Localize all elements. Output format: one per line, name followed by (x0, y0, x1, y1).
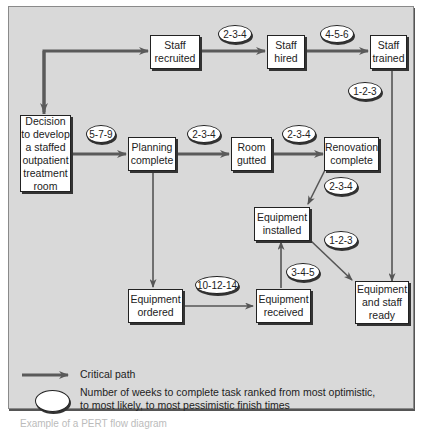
node-label: treatment (23, 167, 67, 180)
node-label: recruited (155, 52, 196, 65)
duration-trained-ready: 1-2-3 (348, 82, 382, 100)
node-equipment-received: Equipment received (256, 289, 311, 323)
duration-gutted-renovation: 2-3-4 (282, 125, 316, 143)
node-label: Equipment (257, 211, 307, 224)
node-label: Equipment (258, 293, 308, 306)
node-label: to develop (21, 128, 69, 141)
legend-critical-path-label: Critical path (80, 368, 135, 381)
arrows-layer (0, 0, 429, 434)
node-label: Planning (132, 141, 173, 154)
node-equipment-staff-ready: Equipment and staff ready (355, 281, 409, 324)
node-planning-complete: Planning complete (128, 137, 176, 171)
duration-renovation-installed: 2-3-4 (324, 177, 358, 195)
duration-decision-planning: 5-7-9 (86, 125, 116, 143)
node-label: gutted (237, 154, 266, 167)
node-staff-trained: Staff trained (370, 35, 407, 69)
node-label: complete (131, 154, 174, 167)
duration-received-installed: 3-4-5 (286, 263, 320, 281)
node-label: ordered (137, 306, 173, 319)
node-label: installed (263, 224, 302, 237)
node-label: Room (237, 141, 265, 154)
node-renovation-complete: Renovation complete (324, 137, 379, 171)
node-staff-recruited: Staff recruited (150, 35, 200, 69)
node-label: and staff (362, 296, 402, 309)
duration-hired-trained: 4-5-6 (320, 25, 354, 43)
node-label: room (34, 180, 58, 193)
node-label: complete (330, 154, 373, 167)
node-label: Equipment (130, 293, 180, 306)
node-label: Equipment (357, 283, 407, 296)
legend-oval-icon (35, 390, 70, 412)
node-room-gutted: Room gutted (231, 137, 272, 171)
duration-ordered-received: 10-12-14 (195, 276, 239, 294)
node-label: Staff (164, 39, 185, 52)
node-label: hired (274, 52, 297, 65)
duration-recruited-hired: 2-3-4 (218, 25, 252, 43)
node-equipment-ordered: Equipment ordered (128, 289, 183, 323)
node-label: trained (372, 52, 404, 65)
node-label: received (264, 306, 304, 319)
node-label: Staff (275, 39, 296, 52)
node-label: Renovation (325, 141, 378, 154)
node-equipment-installed: Equipment installed (254, 207, 310, 241)
node-decision: Decision to develop a staffed outpatient… (20, 115, 71, 192)
node-label: Decision (25, 115, 65, 128)
figure-caption: Example of a PERT flow diagram (20, 418, 167, 429)
legend-oval-line2: to most likely, to most pessimistic fini… (80, 399, 290, 412)
duration-installed-ready: 1-2-3 (324, 231, 358, 249)
node-label: ready (369, 309, 395, 322)
node-label: Staff (378, 39, 399, 52)
duration-planning-gutted: 2-3-4 (187, 125, 221, 143)
node-label: a staffed (25, 141, 65, 154)
node-label: outpatient (22, 154, 68, 167)
node-staff-hired: Staff hired (267, 35, 305, 69)
legend-oval-line1: Number of weeks to complete task ranked … (80, 386, 375, 399)
